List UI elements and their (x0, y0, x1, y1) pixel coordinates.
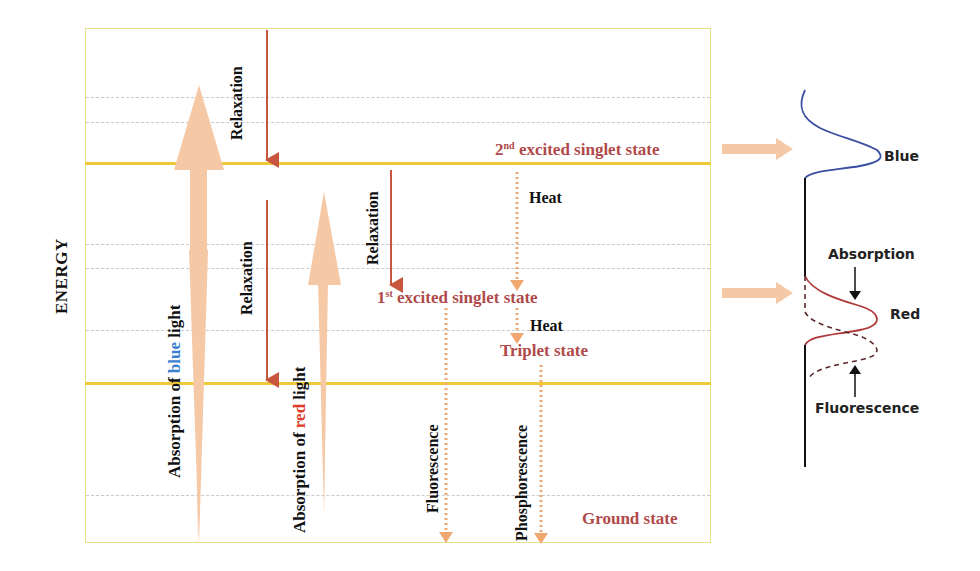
arrows-layer (0, 0, 980, 571)
red-spectrum-label: Red (890, 306, 920, 322)
relaxation-label: Relaxation (238, 241, 256, 315)
energy-axis-label: ENERGY (52, 238, 72, 314)
first-excited-singlet-state-label: 1st excited singlet state (377, 288, 538, 308)
triplet-state-label: Triplet state (500, 341, 588, 361)
fluorescence-spectrum-label: Fluorescence (815, 400, 919, 416)
fluorescence-arrowhead-icon (439, 532, 453, 543)
blue-spectrum-label: Blue (884, 148, 919, 164)
up-arrow-icon (849, 365, 861, 374)
ground-state-label: Ground state (582, 509, 678, 529)
heat-label: Heat (529, 189, 562, 207)
relaxation-label: Relaxation (364, 191, 382, 265)
right-arrow-icon (722, 138, 793, 160)
right-arrow-icon (722, 282, 793, 304)
absorption-blue-light-label: Absorption of blue light (165, 305, 185, 478)
relaxation-label: Relaxation (228, 66, 246, 140)
second-excited-singlet-state-label: 2nd excited singlet state (495, 140, 660, 160)
absorption-red-arrow-icon (308, 192, 341, 515)
blue-absorption-curve (801, 90, 880, 178)
phosphorescence-arrowhead-icon (534, 533, 548, 544)
heat-label: Heat (530, 317, 563, 335)
phosphorescence-label: Phosphorescence (513, 425, 531, 541)
down-arrow-icon (849, 291, 861, 300)
absorption-spectrum-label: Absorption (828, 246, 915, 262)
absorption-red-light-label: Absorption of red light (290, 367, 310, 533)
fluorescence-label: Fluorescence (424, 424, 442, 513)
red-absorption-curve (805, 276, 877, 345)
